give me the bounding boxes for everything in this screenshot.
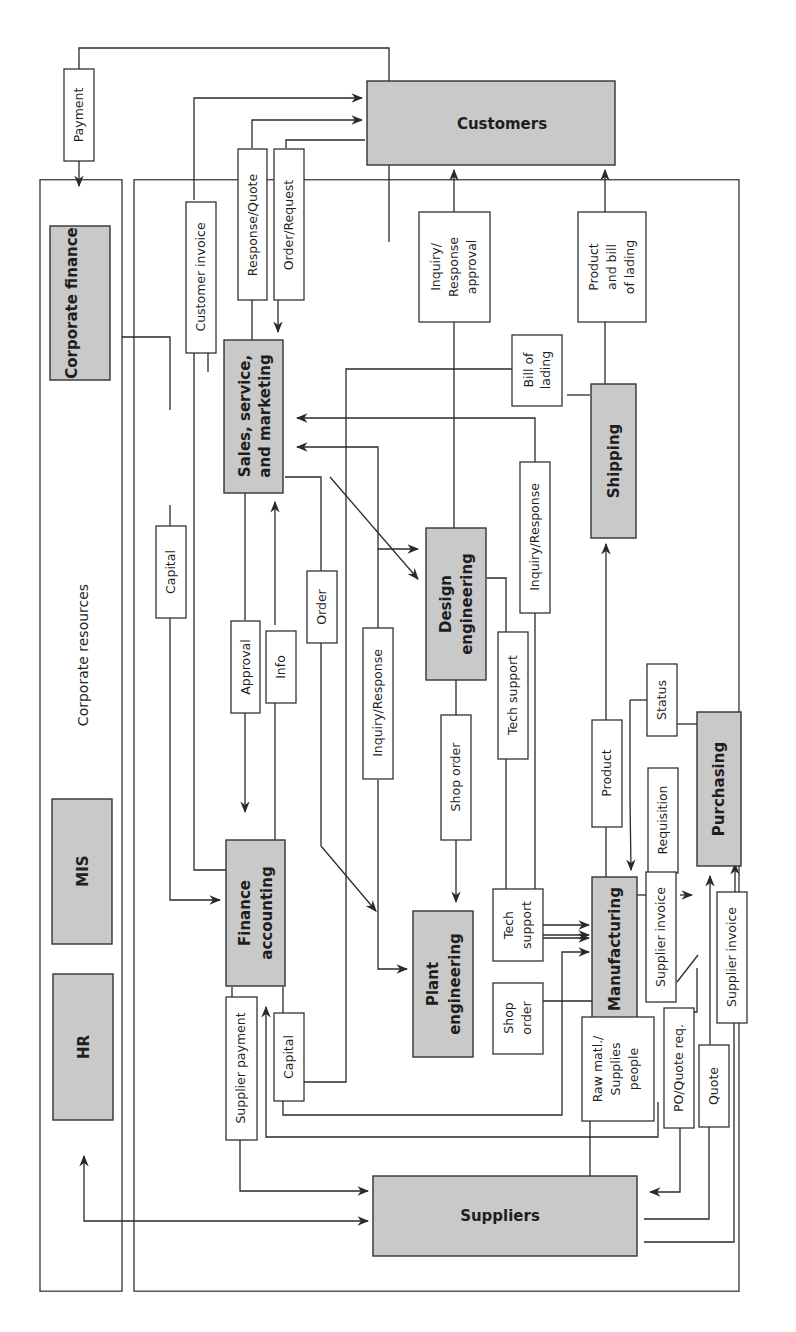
svg-text:Order: Order	[314, 588, 329, 624]
svg-text:Product: Product	[586, 243, 601, 291]
flow-order-request: Order/Request	[274, 149, 304, 300]
flow-info: Info	[266, 631, 296, 703]
flow-po-quote-req: PO/Quote req.	[664, 1008, 694, 1128]
mis-unit: MIS	[52, 799, 112, 944]
svg-text:Customers: Customers	[457, 115, 547, 133]
svg-text:Tech: Tech	[501, 911, 516, 940]
svg-text:Response/Quote: Response/Quote	[245, 174, 260, 277]
flow-tech-support-plant: Tech support	[493, 889, 543, 961]
svg-text:support: support	[519, 901, 534, 949]
flow-inquiry-response-mfg: Inquiry/Response	[520, 462, 550, 613]
svg-text:Shipping: Shipping	[605, 424, 623, 499]
svg-text:Inquiry/: Inquiry/	[428, 242, 443, 290]
corporate-finance-unit: Corporate finance	[50, 226, 110, 380]
svg-text:Shop: Shop	[501, 1002, 516, 1034]
svg-text:Inquiry/Response: Inquiry/Response	[370, 649, 385, 757]
svg-text:Approval: Approval	[238, 639, 253, 694]
svg-text:Supplier payment: Supplier payment	[233, 1012, 248, 1123]
svg-text:Status: Status	[654, 680, 669, 720]
svg-text:Plant: Plant	[424, 962, 442, 1006]
svg-text:Supplies: Supplies	[608, 1043, 623, 1096]
flow-customer-invoice: Customer invoice	[186, 202, 216, 353]
flow-inquiry-response-plant: Inquiry/Response	[363, 628, 393, 779]
flow-supplier-payment: Supplier payment	[226, 997, 257, 1140]
plant-engineering-node: Plant engineering	[413, 911, 473, 1057]
svg-text:Quote: Quote	[706, 1067, 721, 1105]
flow-order: Order	[307, 571, 337, 643]
svg-text:Manufacturing: Manufacturing	[606, 887, 624, 1011]
svg-text:Tech support: Tech support	[505, 655, 520, 736]
flow-capital-bottom: Capital	[274, 1013, 304, 1101]
svg-text:engineering: engineering	[446, 933, 464, 1035]
hr-unit: HR	[53, 974, 113, 1120]
svg-text:Finance: Finance	[236, 880, 254, 946]
flow-shop-order-plant: Shop order	[493, 983, 543, 1054]
svg-text:Product: Product	[599, 749, 614, 797]
flow-supplier-invoice-purch: Supplier invoice	[717, 892, 747, 1023]
svg-text:Capital: Capital	[281, 1035, 296, 1079]
svg-text:Purchasing: Purchasing	[710, 742, 728, 836]
svg-text:Supplier invoice: Supplier invoice	[653, 887, 668, 987]
flow-bill-of-lading: Bill of lading	[512, 335, 562, 406]
customers-node: Customers	[367, 81, 615, 165]
svg-text:Shop order: Shop order	[448, 742, 463, 812]
svg-text:PO/Quote req.: PO/Quote req.	[671, 1024, 686, 1112]
flow-shop-order-design: Shop order	[441, 715, 471, 840]
manufacturing-node: Manufacturing	[592, 877, 637, 1022]
purchasing-node: Purchasing	[697, 712, 741, 866]
sales-node: Sales, service, and marketing	[224, 340, 283, 493]
finance-node: Finance accounting	[226, 840, 285, 986]
flow-inquiry-response-approval: Inquiry/ Response approval	[419, 212, 490, 322]
flow-product-bill-of-lading: Product and bill of lading	[578, 212, 646, 322]
svg-text:Suppliers: Suppliers	[460, 1207, 540, 1225]
svg-text:people: people	[626, 1048, 641, 1091]
svg-text:MIS: MIS	[74, 855, 92, 886]
svg-text:Requisition: Requisition	[655, 785, 670, 854]
flow-product: Product	[592, 720, 622, 827]
flow-response-quote: Response/Quote	[238, 149, 267, 300]
flow-raw-materials: Raw matl./ Supplies people	[582, 1017, 654, 1121]
svg-text:Info: Info	[273, 655, 288, 679]
flow-requisition: Requisition	[648, 768, 678, 873]
svg-text:Payment: Payment	[71, 88, 86, 143]
svg-text:approval: approval	[464, 240, 479, 295]
flow-status: Status	[647, 664, 677, 736]
flow-tech-support-design: Tech support	[498, 632, 528, 759]
svg-text:HR: HR	[75, 1035, 93, 1060]
svg-text:Response: Response	[446, 237, 461, 297]
svg-text:Corporate finance: Corporate finance	[63, 227, 81, 379]
svg-text:Capital: Capital	[163, 550, 178, 594]
flow-quote: Quote	[699, 1045, 729, 1127]
svg-text:Sales, service,: Sales, service,	[236, 355, 254, 477]
svg-text:Design: Design	[437, 575, 455, 633]
svg-text:engineering: engineering	[458, 553, 476, 655]
corporate-resources-label: Corporate resources	[75, 584, 91, 726]
flow-capital-top: Capital	[156, 526, 186, 618]
svg-text:Bill of: Bill of	[521, 352, 536, 388]
design-engineering-node: Design engineering	[426, 528, 486, 680]
svg-text:Inquiry/Response: Inquiry/Response	[527, 483, 542, 591]
shipping-node: Shipping	[591, 384, 636, 538]
svg-text:and marketing: and marketing	[256, 354, 274, 477]
svg-text:Order/Request: Order/Request	[281, 180, 296, 271]
svg-text:order: order	[519, 1000, 534, 1034]
svg-text:of lading: of lading	[622, 240, 637, 294]
flow-supplier-invoice-mfg: Supplier invoice	[646, 872, 676, 1002]
svg-text:Raw matl./: Raw matl./	[590, 1035, 605, 1102]
flow-payment: Payment	[64, 69, 94, 161]
svg-text:accounting: accounting	[258, 866, 276, 959]
flow-approval: Approval	[231, 621, 260, 713]
svg-text:Customer invoice: Customer invoice	[193, 222, 208, 331]
suppliers-node: Suppliers	[373, 1176, 637, 1256]
svg-text:and bill: and bill	[604, 244, 619, 290]
svg-text:lading: lading	[538, 351, 553, 389]
svg-text:Supplier invoice: Supplier invoice	[724, 907, 739, 1007]
functional-flow-diagram: Corporate finance MIS HR Corporate resou…	[0, 0, 796, 1332]
